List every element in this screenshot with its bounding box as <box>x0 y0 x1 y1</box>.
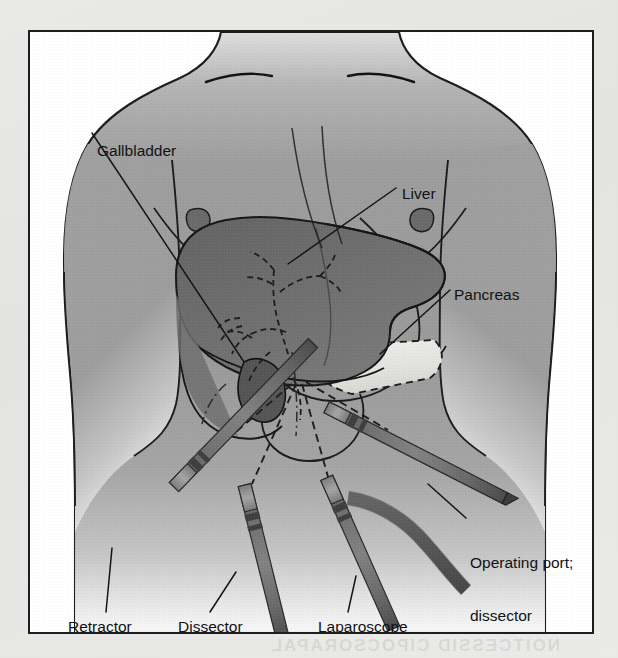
label-gallbladder: Gallbladder <box>97 142 176 160</box>
illustration-plate: Gallbladder Liver Pancreas Operating por… <box>28 30 594 634</box>
label-pancreas: Pancreas <box>454 286 519 304</box>
label-operating-port-line2: dissector <box>470 607 573 625</box>
page-bleed-through-text: NOITCESSID CIPOCSORAPAL <box>40 636 560 654</box>
label-liver: Liver <box>402 185 436 203</box>
label-operating-port-line1: Operating port; <box>470 554 573 572</box>
label-laparoscope: Laparoscope <box>318 618 408 634</box>
label-dissector: Dissector <box>178 618 243 634</box>
label-operating-port: Operating port; dissector <box>470 519 573 634</box>
label-retractor: Retractor <box>68 618 132 634</box>
